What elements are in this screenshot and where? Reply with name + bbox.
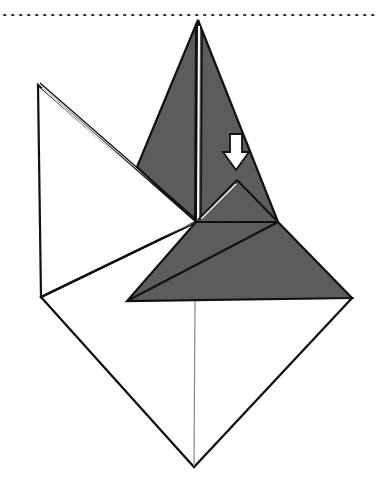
origami-diagram: Origami folding step: a kite/diamond bas… xyxy=(0,0,376,492)
top-point-center-edge-right xyxy=(201,30,202,220)
top-point-center-gap xyxy=(198,26,199,220)
top-point-right-half xyxy=(196,20,278,222)
diagram-canvas xyxy=(0,0,376,492)
top-point-center-edge-left xyxy=(195,24,196,222)
